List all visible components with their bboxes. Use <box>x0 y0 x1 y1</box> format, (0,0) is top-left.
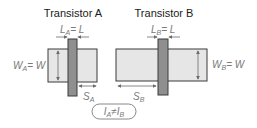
transistor-b-width-label: WB= W <box>212 59 246 71</box>
current-relation: IA≠IB <box>92 104 136 119</box>
transistor-b-spacing-label: SB <box>133 91 145 103</box>
transistor-a-title: Transistor A <box>44 7 103 19</box>
transistor-b-length-label: LB= L <box>151 24 175 36</box>
transistor-b: Transistor B LB= L WB= W SB <box>116 7 246 103</box>
transistor-a-spacing-label: SA <box>83 91 95 103</box>
transistor-a: Transistor A LA= L WA= W SA <box>13 7 103 103</box>
transistor-a-gate <box>68 39 77 96</box>
transistor-b-title: Transistor B <box>135 7 194 19</box>
transistor-a-length-label: LA= L <box>60 24 84 36</box>
transistor-b-gate <box>158 39 168 95</box>
transistor-diagram: Transistor A LA= L WA= W SA Transistor B… <box>0 0 257 128</box>
transistor-a-width-label: WA= W <box>13 60 47 72</box>
